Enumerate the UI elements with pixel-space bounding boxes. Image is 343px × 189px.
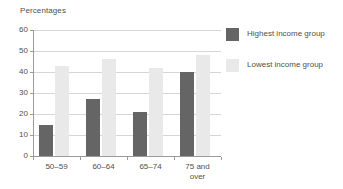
- y-axis-tick-label: 10: [19, 131, 28, 139]
- bar-lowest-income-group: [102, 59, 116, 156]
- legend-item-lowest-income-group: Lowest income group: [226, 58, 343, 72]
- bar-highest-income-group: [180, 72, 194, 156]
- x-axis-tick-mark: [127, 157, 128, 160]
- legend-label-lowest-income-group: Lowest income group: [247, 60, 323, 69]
- x-axis-tick-label-line: 50–59: [33, 162, 80, 172]
- x-axis-tick-mark: [174, 157, 175, 160]
- x-axis-tick-label-line: 75 and: [174, 162, 221, 172]
- y-axis-tick-mark: [30, 51, 34, 52]
- x-axis-tick-label-line: 60–64: [80, 162, 127, 172]
- y-axis-tick-label: 50: [19, 47, 28, 55]
- lowest-income-swatch: [226, 59, 239, 72]
- y-axis-tick-label: 30: [19, 89, 28, 97]
- y-axis-tick-mark: [30, 135, 34, 136]
- y-axis-tick-label: 20: [19, 110, 28, 118]
- plot-area: [33, 30, 221, 156]
- y-axis-tick-labels: 0102030405060: [0, 0, 28, 189]
- x-axis-tick-mark: [33, 157, 34, 160]
- y-axis-tick-label: 0: [24, 152, 28, 160]
- legend-item-highest-income-group: Highest income group: [226, 27, 343, 41]
- bar-highest-income-group: [86, 99, 100, 156]
- x-axis-tick-label-line: 65–74: [127, 162, 174, 172]
- y-axis-tick-mark: [30, 72, 34, 73]
- highest-income-swatch: [226, 28, 239, 41]
- x-axis-tick-label: 65–74: [127, 162, 174, 172]
- bar-chart: Percentages 0102030405060 Highest income…: [0, 0, 343, 189]
- bar-lowest-income-group: [196, 55, 210, 156]
- chart-legend: Highest income group Lowest income group: [226, 27, 343, 89]
- gridline: [33, 30, 221, 31]
- x-axis-tick-label: 75 andover: [174, 162, 221, 182]
- gridline: [33, 51, 221, 52]
- y-axis-tick-mark: [30, 114, 34, 115]
- x-axis-tick-label: 60–64: [80, 162, 127, 172]
- y-axis-tick-label: 40: [19, 68, 28, 76]
- x-axis-tick-label: 50–59: [33, 162, 80, 172]
- y-axis-tick-mark: [30, 30, 34, 31]
- x-axis-tick-mark: [80, 157, 81, 160]
- bar-highest-income-group: [39, 125, 53, 157]
- y-axis-tick-mark: [30, 93, 34, 94]
- y-axis-tick-label: 60: [19, 26, 28, 34]
- x-axis-tick-mark: [221, 157, 222, 160]
- x-axis-tick-label-line: over: [174, 172, 221, 182]
- bar-highest-income-group: [133, 112, 147, 156]
- bar-lowest-income-group: [55, 66, 69, 156]
- legend-label-highest-income-group: Highest income group: [247, 29, 325, 38]
- bar-lowest-income-group: [149, 68, 163, 156]
